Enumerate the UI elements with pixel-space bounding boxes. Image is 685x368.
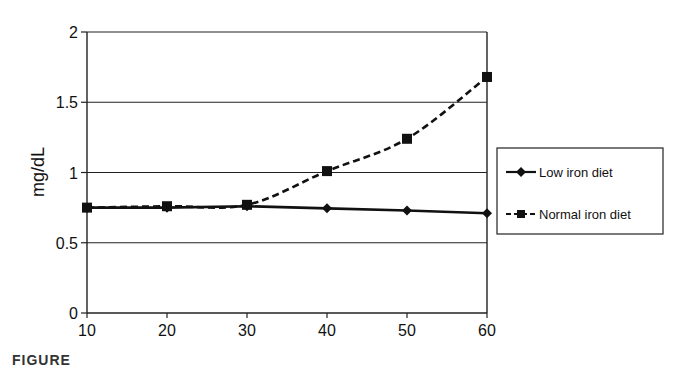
figure-caption-fragment: FIGURE — [12, 352, 71, 368]
square-marker-icon — [517, 210, 525, 218]
square-marker-icon — [322, 166, 332, 176]
legend-label-normal-iron: Normal iron diet — [539, 207, 631, 222]
diamond-marker-icon — [322, 203, 332, 213]
y-tick-label: 1 — [69, 165, 78, 182]
diamond-marker-icon — [402, 205, 412, 215]
y-tick-label: 0 — [69, 305, 78, 322]
x-tick-label: 60 — [478, 322, 496, 339]
square-marker-icon — [482, 72, 492, 82]
x-axis-ticks: 102030405060 — [78, 313, 496, 339]
diamond-marker-icon — [482, 208, 492, 218]
y-axis-ticks: 00.511.52 — [56, 24, 87, 322]
legend-label-low-iron: Low iron diet — [539, 165, 613, 180]
x-tick-label: 10 — [78, 322, 96, 339]
y-axis-title: mg/dL — [28, 147, 48, 197]
legend: Low iron diet Normal iron diet — [497, 148, 663, 234]
x-tick-label: 20 — [158, 322, 176, 339]
y-tick-label: 1.5 — [56, 94, 78, 111]
x-tick-label: 50 — [398, 322, 416, 339]
x-tick-label: 40 — [318, 322, 336, 339]
y-tick-label: 2 — [69, 24, 78, 41]
series-normal-iron — [82, 72, 492, 213]
square-marker-icon — [402, 134, 412, 144]
x-tick-label: 30 — [238, 322, 256, 339]
y-tick-label: 0.5 — [56, 235, 78, 252]
data-series — [82, 72, 492, 218]
series-low-iron — [82, 201, 492, 218]
